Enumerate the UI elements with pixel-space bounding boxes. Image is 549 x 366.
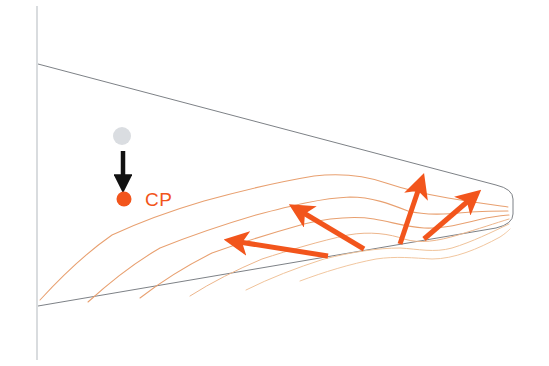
velocity-vector-2: [297, 209, 364, 249]
contour-line-1: [40, 175, 508, 300]
wing-pressure-diagram: CP: [0, 0, 549, 366]
contour-line-4: [190, 219, 509, 296]
diagram-canvas: CP: [0, 0, 549, 366]
contour-line-5: [246, 224, 509, 290]
cp-label: CP: [145, 189, 172, 210]
wing-planform-outline: [38, 64, 513, 306]
velocity-vectors: [233, 182, 474, 256]
cp-marker-dot: [117, 192, 132, 207]
pressure-contours: [40, 175, 510, 302]
reference-point-marker: [113, 127, 131, 145]
